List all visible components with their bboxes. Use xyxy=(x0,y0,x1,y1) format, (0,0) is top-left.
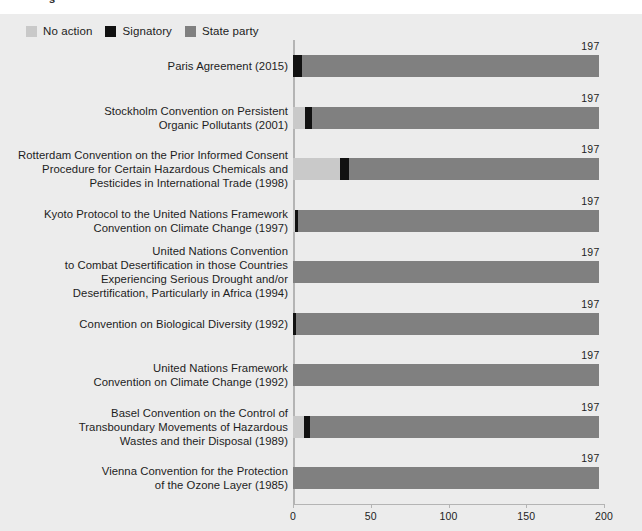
category-label: Paris Agreement (2015) xyxy=(0,59,288,73)
bar-value-label: 197 xyxy=(581,92,599,104)
bar-segment-state-party[interactable] xyxy=(298,210,600,232)
stacked-bar[interactable] xyxy=(293,55,599,77)
category-label: United Nations FrameworkConvention on Cl… xyxy=(0,361,288,389)
category-label: Basel Convention on the Control ofTransb… xyxy=(0,406,288,448)
bar-value-label: 197 xyxy=(581,349,599,361)
bar-segment-state-party[interactable] xyxy=(296,313,599,335)
category-label: Rotterdam Convention on the Prior Inform… xyxy=(0,148,288,190)
bar-segment-state-party[interactable] xyxy=(293,467,599,489)
x-tick-label: 150 xyxy=(517,510,535,522)
bar-value-label: 197 xyxy=(581,401,599,413)
bar-value-label: 197 xyxy=(581,195,599,207)
stacked-bar[interactable] xyxy=(293,313,599,335)
figure-container: s No actionSignatoryState party Paris Ag… xyxy=(0,0,642,531)
cropped-title-strip: s xyxy=(0,0,642,14)
x-tick-mark xyxy=(449,504,450,508)
category-label-line: Procedure for Certain Hazardous Chemical… xyxy=(0,162,288,176)
category-label: United Nations Conventionto Combat Deser… xyxy=(0,244,288,300)
bar-value-label: 197 xyxy=(581,298,599,310)
stacked-bar[interactable] xyxy=(293,158,599,180)
chart-panel: No actionSignatoryState party Paris Agre… xyxy=(0,14,642,531)
stacked-bar[interactable] xyxy=(293,210,599,232)
stacked-bar[interactable] xyxy=(293,107,599,129)
category-label-line: Stockholm Convention on Persistent xyxy=(0,104,288,118)
stacked-bar[interactable] xyxy=(293,467,599,489)
category-label: Kyoto Protocol to the United Nations Fra… xyxy=(0,207,288,235)
x-tick-label: 0 xyxy=(290,510,296,522)
x-tick-mark xyxy=(604,504,605,508)
category-label-line: Convention on Climate Change (1997) xyxy=(0,221,288,235)
stacked-bar[interactable] xyxy=(293,364,599,386)
chart-row: Rotterdam Convention on the Prior Inform… xyxy=(0,143,642,195)
bar-value-label: 197 xyxy=(581,246,599,258)
category-label-line: Rotterdam Convention on the Prior Inform… xyxy=(0,148,288,162)
chart-row: United Nations Conventionto Combat Deser… xyxy=(0,246,642,298)
x-tick-label: 200 xyxy=(595,510,613,522)
bar-segment-signatory[interactable] xyxy=(293,55,302,77)
bar-segment-no-action[interactable] xyxy=(293,416,304,438)
bar-rows: Paris Agreement (2015)197Stockholm Conve… xyxy=(0,14,642,478)
chart-row: Stockholm Convention on PersistentOrgani… xyxy=(0,92,642,144)
category-label-line: Wastes and their Disposal (1989) xyxy=(0,434,288,448)
category-label-line: Basel Convention on the Control of xyxy=(0,406,288,420)
bar-segment-no-action[interactable] xyxy=(293,158,340,180)
bar-segment-state-party[interactable] xyxy=(293,364,599,386)
category-label-line: Transboundary Movements of Hazardous xyxy=(0,420,288,434)
bar-segment-state-party[interactable] xyxy=(349,158,599,180)
chart-row: United Nations FrameworkConvention on Cl… xyxy=(0,349,642,401)
category-label-line: United Nations Framework xyxy=(0,361,288,375)
category-label-line: United Nations Convention xyxy=(0,244,288,258)
chart-row: Basel Convention on the Control ofTransb… xyxy=(0,401,642,453)
stacked-bar[interactable] xyxy=(293,261,599,283)
x-axis-ticks: 050100150200 xyxy=(0,504,642,528)
category-label-line: Kyoto Protocol to the United Nations Fra… xyxy=(0,207,288,221)
chart-row: Paris Agreement (2015)197 xyxy=(0,40,642,92)
category-label: Vienna Convention for the Protectionof t… xyxy=(0,464,288,492)
category-label-line: to Combat Desertification in those Count… xyxy=(0,258,288,272)
bar-segment-state-party[interactable] xyxy=(312,107,600,129)
bar-segment-state-party[interactable] xyxy=(293,261,599,283)
bar-value-label: 197 xyxy=(581,143,599,155)
category-label-line: Experiencing Serious Drought and/or xyxy=(0,272,288,286)
cropped-title-text: s xyxy=(49,0,55,5)
x-tick-mark xyxy=(526,504,527,508)
chart-row: Vienna Convention for the Protectionof t… xyxy=(0,452,642,504)
x-tick-mark xyxy=(293,504,294,508)
category-label-line: of the Ozone Layer (1985) xyxy=(0,478,288,492)
chart-row: Convention on Biological Diversity (1992… xyxy=(0,298,642,350)
category-label-line: Convention on Biological Diversity (1992… xyxy=(0,317,288,331)
bar-segment-signatory[interactable] xyxy=(340,158,349,180)
bar-value-label: 197 xyxy=(581,40,599,52)
category-label-line: Pesticides in International Trade (1998) xyxy=(0,176,288,190)
category-label: Convention on Biological Diversity (1992… xyxy=(0,317,288,331)
bar-value-label: 197 xyxy=(581,452,599,464)
category-label-line: Convention on Climate Change (1992) xyxy=(0,375,288,389)
category-label: Stockholm Convention on PersistentOrgani… xyxy=(0,104,288,132)
x-tick-label: 50 xyxy=(365,510,377,522)
x-tick-label: 100 xyxy=(439,510,457,522)
bar-segment-state-party[interactable] xyxy=(310,416,599,438)
chart-row: Kyoto Protocol to the United Nations Fra… xyxy=(0,195,642,247)
category-label-line: Vienna Convention for the Protection xyxy=(0,464,288,478)
category-label-line: Organic Pollutants (2001) xyxy=(0,118,288,132)
bar-segment-no-action[interactable] xyxy=(293,107,305,129)
bar-segment-state-party[interactable] xyxy=(302,55,599,77)
category-label-line: Paris Agreement (2015) xyxy=(0,59,288,73)
x-tick-mark xyxy=(371,504,372,508)
stacked-bar[interactable] xyxy=(293,416,599,438)
